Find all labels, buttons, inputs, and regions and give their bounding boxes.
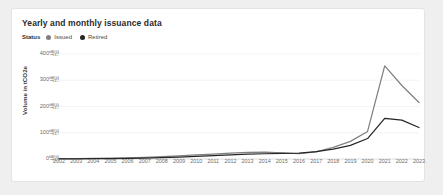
x-tick-label: 2003: [70, 159, 82, 164]
x-tick-label: 2014: [259, 159, 271, 164]
x-tick-label: 2007: [139, 159, 151, 164]
chart-card: Yearly and monthly issuance data Status …: [11, 8, 425, 182]
x-tick-label: 2006: [122, 159, 134, 164]
x-tick-label: 2013: [242, 159, 254, 164]
x-tick-label: 2023: [413, 159, 425, 164]
x-tick-label: 2016: [293, 159, 305, 164]
x-tick-label: 2022: [396, 159, 408, 164]
x-tick-label: 2002: [53, 159, 65, 164]
chart-series-lines: [59, 66, 419, 159]
series-line-issued: [59, 66, 419, 159]
y-tick-label: 300백만: [40, 77, 59, 83]
x-axis-ticks: 2002200320042005200620072008200920102011…: [59, 159, 419, 175]
y-tick-label: 400백만: [40, 51, 59, 57]
y-tick-label: 100백만: [40, 130, 59, 136]
x-tick-label: 2017: [310, 159, 322, 164]
line-chart-svg: [59, 54, 419, 159]
x-tick-label: 2008: [156, 159, 168, 164]
x-tick-label: 2004: [87, 159, 99, 164]
x-tick-label: 2019: [344, 159, 356, 164]
y-tick-label: 200백만: [40, 104, 59, 110]
x-tick-label: 2021: [379, 159, 391, 164]
x-tick-label: 2018: [327, 159, 339, 164]
x-tick-label: 2009: [173, 159, 185, 164]
x-tick-label: 2011: [207, 159, 219, 164]
x-tick-label: 2010: [190, 159, 202, 164]
y-axis-ticks: 0백만100백만200백만300백만400백만: [12, 9, 59, 183]
x-tick-label: 2020: [362, 159, 374, 164]
x-tick-label: 2015: [276, 159, 288, 164]
x-tick-label: 2012: [224, 159, 236, 164]
chart-gridlines: [59, 54, 419, 159]
x-tick-label: 2005: [104, 159, 116, 164]
chart-plot-area: Volume in tCO2e 0백만100백만200백만300백만400백만 …: [12, 9, 426, 183]
